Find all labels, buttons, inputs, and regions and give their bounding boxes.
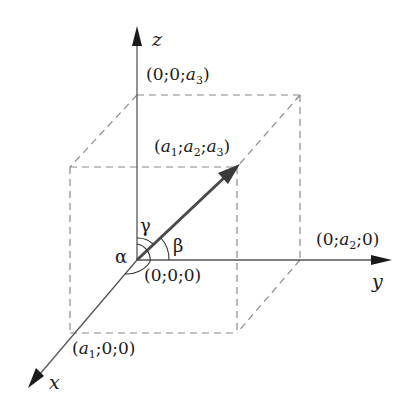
y-arrow-icon [371,255,392,265]
axes [34,32,386,381]
origin-label: (0;0;0) [144,267,201,284]
x-axis-label: x [49,373,60,392]
coordinate-diagram [0,0,418,410]
angle-beta-label: β [173,237,183,255]
gamma-arc [137,238,153,244]
vector-end-label: (a1;a2;a3) [154,138,230,158]
x-arrow-icon [28,368,44,388]
angle-gamma-label: γ [140,217,151,235]
beta-arc [161,238,169,260]
z-arrow-icon [132,26,142,46]
angle-alpha-label: α [115,248,127,266]
y-axis-label: y [372,272,383,291]
x-point-label: (a1;0;0) [72,340,136,360]
z-point-label: (0;0;a3) [146,66,210,86]
x-axis [34,260,137,381]
y-point-label: (0;a2;0) [316,231,380,251]
z-axis-label: z [152,30,162,49]
